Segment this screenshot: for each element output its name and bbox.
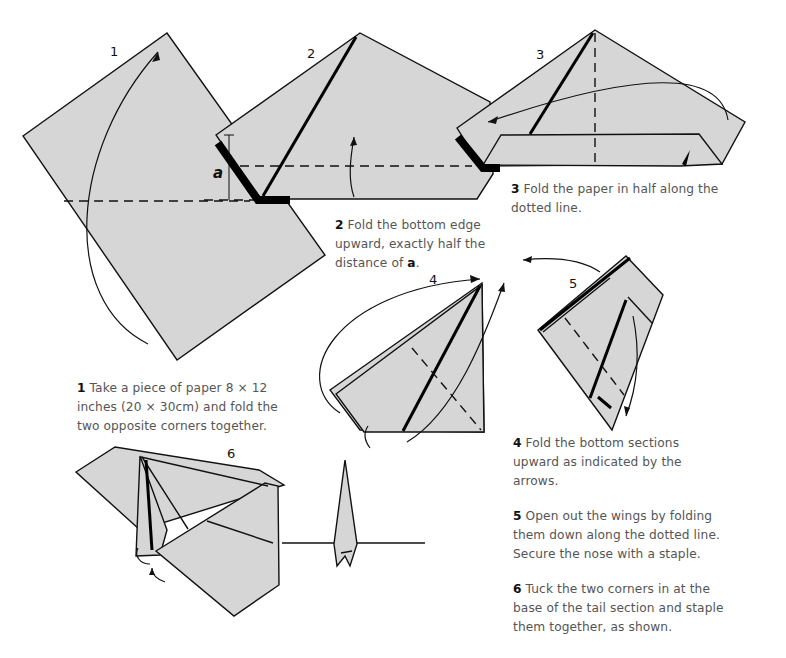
step-3-caption-num: 3 (511, 182, 520, 196)
caption-line: two opposite corners together. (77, 417, 278, 436)
step-1-caption: 1 Take a piece of paper 8 × 12 inches (2… (77, 379, 278, 436)
caption-line: Take a piece of paper 8 × 12 (90, 381, 268, 395)
step-6-number: 6 (227, 446, 235, 461)
step-4-diagram (320, 275, 505, 448)
caption-line: Tuck the two corners in at the (526, 582, 710, 596)
step-2-diagram: a (204, 33, 493, 200)
step-4-number: 4 (429, 272, 437, 287)
step-6-diagram (76, 447, 284, 616)
caption-line: upward as indicated by the (513, 453, 682, 472)
step-5-caption: 5 Open out the wings by folding them dow… (513, 507, 720, 564)
caption-bold-a: a (407, 256, 415, 270)
step-1-caption-num: 1 (77, 381, 86, 395)
step-2-caption-num: 2 (335, 218, 344, 232)
caption-line: Open out the wings by folding (526, 509, 713, 523)
caption-line: Fold the bottom sections (526, 436, 680, 450)
caption-line: upward, exactly half the (335, 235, 485, 254)
caption-line: distance of (335, 256, 407, 270)
step-3-diagram (457, 30, 745, 168)
step-5-number: 5 (569, 276, 577, 291)
caption-line: arrows. (513, 472, 682, 491)
step-3-number: 3 (536, 47, 544, 62)
step-6-caption: 6 Tuck the two corners in at the base of… (513, 580, 724, 637)
caption-line: Secure the nose with a staple. (513, 545, 720, 564)
caption-suffix: . (416, 256, 420, 270)
step-1-number: 1 (110, 44, 118, 59)
measure-label-a: a (213, 164, 223, 182)
caption-line: them together, as shown. (513, 618, 724, 637)
caption-line: base of the tail section and staple (513, 599, 724, 618)
step-5-caption-num: 5 (513, 509, 522, 523)
step-3-caption: 3 Fold the paper in half along the dotte… (511, 180, 718, 218)
caption-line: Fold the paper in half along the (524, 182, 719, 196)
caption-line: inches (20 × 30cm) and fold the (77, 398, 278, 417)
caption-line: Fold the bottom edge (348, 218, 481, 232)
step-5-diagram (523, 256, 663, 430)
step-2-number: 2 (307, 46, 315, 61)
step-2-caption: 2 Fold the bottom edge upward, exactly h… (335, 216, 485, 273)
step-6-rear-view (282, 460, 425, 566)
caption-line: dotted line. (511, 199, 718, 218)
step-6-caption-num: 6 (513, 582, 522, 596)
caption-line: them down along the dotted line. (513, 526, 720, 545)
step-4-caption-num: 4 (513, 436, 522, 450)
step-4-caption: 4 Fold the bottom sections upward as ind… (513, 434, 682, 491)
